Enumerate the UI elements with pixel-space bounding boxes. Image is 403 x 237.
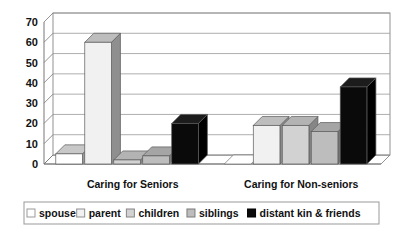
- legend-label: distant kin & friends: [260, 207, 361, 219]
- category-label: Caring for Seniors: [87, 178, 179, 190]
- legend-swatch: [248, 209, 256, 217]
- bar: [172, 114, 208, 164]
- y-tick-label: 20: [26, 117, 38, 129]
- y-tick-label: 40: [26, 77, 38, 89]
- legend-item[interactable]: siblings: [187, 207, 239, 219]
- legend-swatch: [126, 209, 134, 217]
- y-tick-label: 30: [26, 97, 38, 109]
- legend-label: parent: [89, 207, 122, 219]
- y-tick-label: 60: [26, 36, 38, 48]
- legend-item[interactable]: parent: [77, 207, 122, 219]
- chart-legend: spouseparentchildrensiblingsdistant kin …: [24, 202, 379, 224]
- legend-label: siblings: [199, 207, 239, 219]
- y-tick-label: 50: [26, 57, 38, 69]
- bar: [340, 78, 376, 164]
- legend-swatch: [187, 209, 195, 217]
- y-tick-label: 0: [32, 158, 38, 170]
- chart-canvas: 010203040506070 Caring for SeniorsCaring…: [0, 0, 403, 237]
- legend-item[interactable]: distant kin & friends: [248, 207, 361, 219]
- y-axis-tick-labels: 010203040506070: [26, 16, 38, 170]
- legend-item[interactable]: children: [126, 207, 179, 219]
- legend-label: children: [138, 207, 179, 219]
- legend-label: spouse: [39, 207, 76, 219]
- category-axis-labels: Caring for SeniorsCaring for Non-seniors: [87, 178, 359, 190]
- category-label: Caring for Non-seniors: [244, 178, 359, 190]
- y-tick-label: 10: [26, 138, 38, 150]
- bar-chart: 010203040506070 Caring for SeniorsCaring…: [0, 0, 403, 237]
- bar: [85, 33, 121, 164]
- legend-swatch: [77, 209, 85, 217]
- y-tick-label: 70: [26, 16, 38, 28]
- legend-item[interactable]: spouse: [27, 207, 76, 219]
- legend-swatch: [27, 209, 35, 217]
